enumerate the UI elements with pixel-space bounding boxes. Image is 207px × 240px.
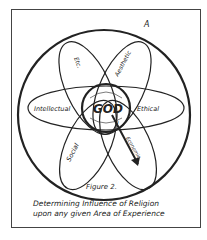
petal-label-ethical: Ethical: [137, 105, 159, 113]
petal-label-intellectual: Intellectual: [34, 105, 70, 113]
caption-line-2: upon any given Area of Experience: [33, 209, 165, 218]
outer-label: A: [143, 20, 149, 29]
caption-line-1: Determining Influence of Religion: [33, 199, 159, 208]
petal-label-aesthetic: Aesthetic: [112, 49, 132, 79]
petal-label-etc: Etc.: [73, 56, 83, 69]
center-label: GOD: [93, 102, 123, 116]
petal-label-social: Social: [65, 142, 81, 163]
point-label: a: [115, 118, 119, 125]
figure-number: Figure 2.: [86, 183, 117, 191]
